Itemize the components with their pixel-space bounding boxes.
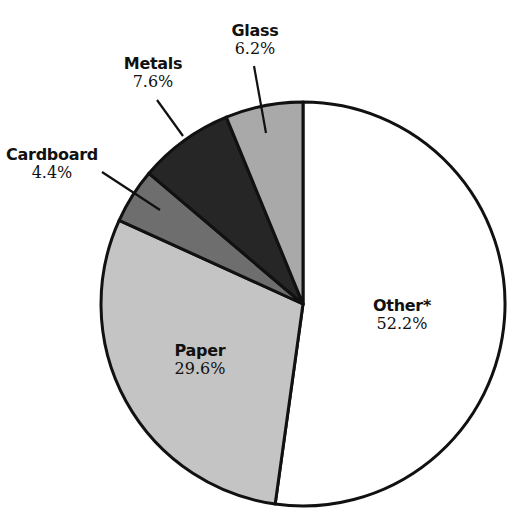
label-paper-pct: 29.6% (160, 360, 240, 378)
label-other-pct: 52.2% (362, 315, 442, 333)
pie-chart (0, 0, 513, 532)
leader-line-metals (157, 100, 183, 136)
label-paper: Paper 29.6% (160, 342, 240, 379)
label-cardboard: Cardboard 4.4% (2, 146, 102, 183)
label-glass: Glass 6.2% (222, 22, 288, 59)
label-other: Other* 52.2% (362, 297, 442, 334)
label-paper-name: Paper (160, 342, 240, 360)
label-cardboard-name: Cardboard (2, 146, 102, 164)
label-metals-name: Metals (118, 55, 188, 73)
label-other-name: Other* (362, 297, 442, 315)
label-metals: Metals 7.6% (118, 55, 188, 92)
label-glass-name: Glass (222, 22, 288, 40)
pie-slices (101, 102, 505, 506)
label-metals-pct: 7.6% (118, 73, 188, 91)
label-cardboard-pct: 4.4% (2, 164, 102, 182)
label-glass-pct: 6.2% (222, 40, 288, 58)
